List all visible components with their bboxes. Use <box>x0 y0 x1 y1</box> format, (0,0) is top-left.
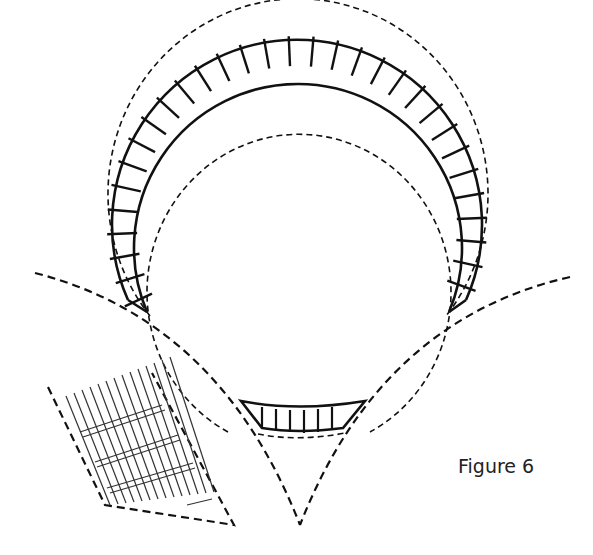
figure-caption: Figure 6 <box>458 455 534 477</box>
left-dashed-arc <box>35 273 300 525</box>
outer-dashed-ring <box>108 0 488 316</box>
inner-dashed-ring <box>147 134 451 432</box>
right-dashed-arc <box>300 277 570 525</box>
outer-solid-arc <box>112 40 482 300</box>
crosshatch-panel-border <box>48 373 234 525</box>
inner-solid-arc <box>134 84 462 312</box>
